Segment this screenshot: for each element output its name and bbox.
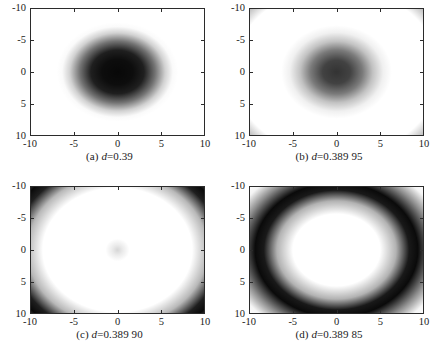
y-tick-label: 5 (240, 277, 245, 288)
x-tick-label: 10 (200, 139, 211, 150)
intensity-field-c (31, 187, 204, 313)
intensity-field-d (250, 187, 423, 313)
panel-caption-c: (c) d=0.389 90 (0, 328, 219, 340)
x-tick-label: -5 (69, 317, 78, 328)
y-tick-label: -10 (231, 3, 245, 14)
panel-value-d: =0.389 85 (317, 328, 363, 340)
x-tick-label: 5 (378, 139, 383, 150)
y-tick-label: -10 (12, 3, 26, 14)
x-tick-label: 10 (200, 317, 211, 328)
x-tick-label: 0 (334, 317, 339, 328)
x-tick-label: 10 (419, 317, 430, 328)
x-tick-label: -10 (23, 139, 37, 150)
x-tick-label: -10 (23, 317, 37, 328)
y-tick-label: 0 (21, 67, 26, 78)
plot-area-c: -10 -5 0 5 10 -10 -5 0 5 10 (30, 186, 205, 314)
panel-caption-d: (d) d=0.389 85 (219, 328, 439, 340)
plot-area-a: -10 -5 0 5 10 -10 -5 0 5 10 (30, 8, 205, 136)
x-tick-label: -5 (288, 139, 297, 150)
y-tick-label: -5 (236, 35, 245, 46)
y-tick-label: -10 (12, 181, 26, 192)
x-tick-label: -5 (69, 139, 78, 150)
y-tick-label: 5 (21, 277, 26, 288)
panel-caption-b: (b) d=0.389 95 (219, 150, 439, 162)
y-tick-label: 5 (21, 99, 26, 110)
panel-d: -10 -5 0 5 10 -10 -5 0 5 10 (d) d=0.389 … (219, 178, 439, 357)
y-tick-label: 5 (240, 99, 245, 110)
intensity-field-b (250, 9, 423, 135)
panel-value-a: =0.39 (107, 150, 133, 162)
x-tick-label: 5 (159, 139, 164, 150)
panel-tag-b: (b) (295, 150, 308, 162)
figure-panel-grid: -10 -5 0 5 10 -10 -5 0 5 10 (a) d=0.39 - (0, 0, 439, 357)
y-tick-label: -5 (17, 213, 26, 224)
x-tick-label: 10 (419, 139, 430, 150)
panel-value-b: =0.389 95 (317, 150, 363, 162)
x-tick-label: 0 (334, 139, 339, 150)
plot-box-d (249, 186, 424, 314)
plot-area-d: -10 -5 0 5 10 -10 -5 0 5 10 (249, 186, 424, 314)
panel-tag-c: (c) (76, 328, 89, 340)
x-tick-label: 0 (115, 139, 120, 150)
y-tick-label: -10 (231, 181, 245, 192)
y-tick-label: 0 (240, 245, 245, 256)
x-tick-label: -10 (242, 139, 256, 150)
panel-caption-a: (a) d=0.39 (0, 150, 219, 162)
plot-area-b: -10 -5 0 5 10 -10 -5 0 5 10 (249, 8, 424, 136)
y-tick-label: 0 (21, 245, 26, 256)
x-tick-label: -10 (242, 317, 256, 328)
x-tick-label: 5 (159, 317, 164, 328)
panel-value-c: =0.389 90 (97, 328, 143, 340)
y-tick-label: -5 (17, 35, 26, 46)
x-tick-label: 5 (378, 317, 383, 328)
x-tick-label: 0 (115, 317, 120, 328)
plot-box-b (249, 8, 424, 136)
panel-a: -10 -5 0 5 10 -10 -5 0 5 10 (a) d=0.39 (0, 0, 219, 178)
panel-c: -10 -5 0 5 10 -10 -5 0 5 10 (c) d=0.389 … (0, 178, 219, 357)
y-tick-label: 0 (240, 67, 245, 78)
intensity-field-a (31, 9, 204, 135)
y-tick-label: -5 (236, 213, 245, 224)
panel-tag-d: (d) (295, 328, 308, 340)
plot-box-a (30, 8, 205, 136)
panel-b: -10 -5 0 5 10 -10 -5 0 5 10 (b) d=0.389 … (219, 0, 439, 178)
panel-tag-a: (a) (86, 150, 99, 162)
plot-box-c (30, 186, 205, 314)
x-tick-label: -5 (288, 317, 297, 328)
